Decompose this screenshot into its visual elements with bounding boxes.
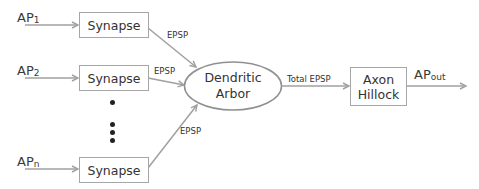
- axon-hillock-box: Axon Hillock: [350, 67, 407, 106]
- synapse-box-3: Synapse: [79, 157, 149, 183]
- ellipsis-dot: [110, 138, 115, 143]
- edge-label-epsp-2: EPSP: [154, 66, 175, 76]
- ellipsis-dot: [110, 130, 115, 135]
- synapse-box-1: Synapse: [79, 12, 149, 38]
- arrow-synapse3-to-dendritic: [148, 105, 197, 168]
- output-label-apout: APout: [414, 68, 445, 84]
- input-label-apn: APn: [17, 155, 39, 171]
- synapse-label: Synapse: [87, 163, 140, 178]
- synapse-box-2: Synapse: [79, 65, 149, 91]
- ellipsis-dot: [110, 100, 115, 105]
- edge-label-total-epsp: Total EPSP: [287, 74, 331, 84]
- ellipsis-dot: [110, 122, 115, 127]
- edge-label-epsp-1: EPSP: [167, 30, 188, 40]
- synapse-label: Synapse: [87, 71, 140, 86]
- arrow-synapse2-to-dendritic: [148, 78, 184, 85]
- input-label-ap2: AP2: [17, 64, 39, 80]
- synapse-label: Synapse: [87, 18, 140, 33]
- input-label-ap1: AP1: [17, 11, 39, 27]
- edge-label-epsp-3: EPSP: [180, 126, 201, 136]
- dendritic-arbor-label: Dendritic Arbor: [184, 70, 282, 102]
